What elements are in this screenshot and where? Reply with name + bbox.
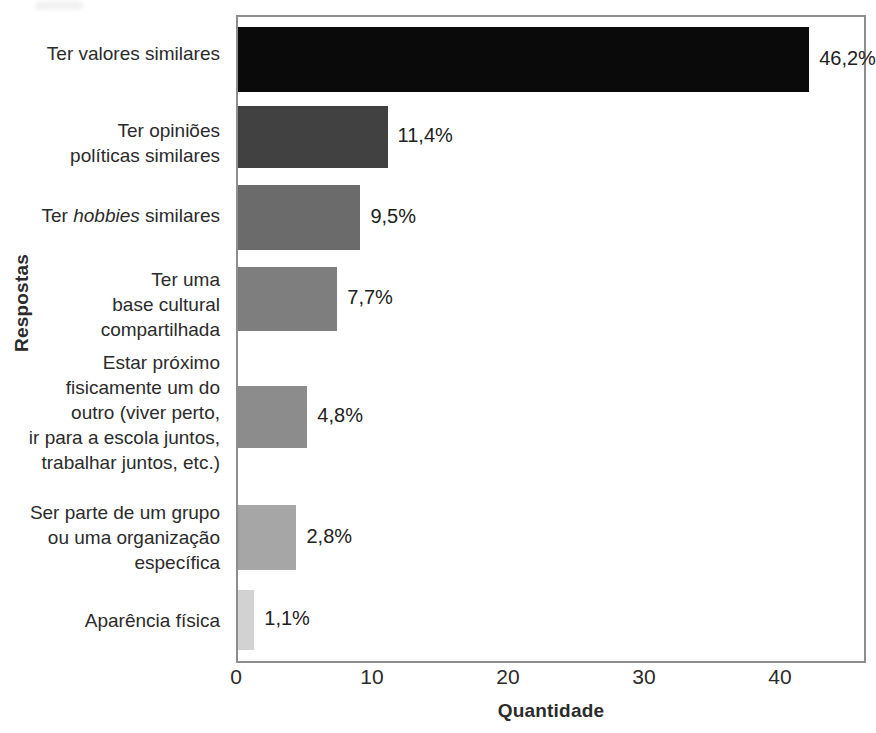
bar-4 <box>238 267 337 331</box>
x-tick-10: 10 <box>342 665 402 689</box>
value-label-2: 11,4% <box>398 124 453 147</box>
value-label-1: 46,2% <box>819 47 876 70</box>
bar-7 <box>238 590 254 650</box>
bar-6 <box>238 505 296 570</box>
category-label-1: Ter valores similares <box>0 41 220 66</box>
bar-1 <box>238 27 809 92</box>
x-axis-title: Quantidade <box>236 700 866 722</box>
x-tick-30: 30 <box>614 665 674 689</box>
category-label-4: Ter umabase culturalcompartilhada <box>0 267 220 342</box>
category-label-2: Ter opiniõespolíticas similares <box>0 118 220 168</box>
category-label-6: Ser parte de um grupoou uma organizaçãoe… <box>0 500 220 575</box>
category-label-7: Aparência física <box>0 608 220 633</box>
category-label-3: Ter hobbies similares <box>0 203 220 228</box>
x-axis-tick-group: 010203040 <box>0 665 876 695</box>
bar-3 <box>238 185 360 250</box>
value-label-7: 1,1% <box>264 607 310 630</box>
x-tick-20: 20 <box>478 665 538 689</box>
bar-5 <box>238 386 307 448</box>
value-label-5: 4,8% <box>317 404 363 427</box>
value-label-3: 9,5% <box>370 205 416 228</box>
bar-series-group <box>238 15 866 663</box>
scan-artifact <box>36 2 82 9</box>
bar-2 <box>238 106 388 168</box>
bar-chart-figure: Respostas Ter valores similaresTer opini… <box>0 0 876 733</box>
category-label-5: Estar próximofisicamente um dooutro (viv… <box>0 350 220 475</box>
x-tick-0: 0 <box>206 665 266 689</box>
value-label-6: 2,8% <box>306 525 352 548</box>
x-tick-40: 40 <box>750 665 810 689</box>
category-label-group: Ter valores similaresTer opiniõespolític… <box>0 15 228 663</box>
value-label-4: 7,7% <box>347 286 393 309</box>
